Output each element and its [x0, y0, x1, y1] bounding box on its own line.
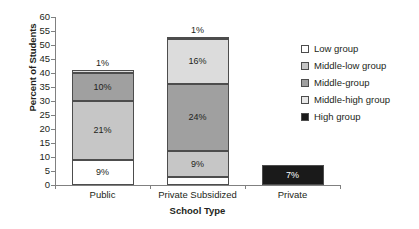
- segment-value-label: 10%: [93, 83, 111, 92]
- y-tick-label-35: 35: [26, 82, 50, 92]
- legend-swatch-icon: [301, 113, 309, 121]
- legend-swatch-icon: [301, 96, 309, 104]
- bar-segment[interactable]: 21%: [72, 101, 134, 160]
- x-tick-label-public: Public: [55, 190, 150, 200]
- bar-segment[interactable]: 9%: [72, 160, 134, 185]
- x-tick-mark: [150, 185, 151, 189]
- y-tick-label-5: 5: [26, 166, 50, 176]
- y-tick-label-45: 45: [26, 54, 50, 64]
- x-tick-label-private-subsidized: Private Subsidized: [150, 190, 245, 200]
- bar-segment[interactable]: [167, 37, 229, 40]
- y-tick-mark-25: [51, 115, 55, 116]
- y-tick-label-60: 60: [26, 12, 50, 22]
- segment-value-label: 16%: [188, 57, 206, 66]
- y-tick-mark-45: [51, 59, 55, 60]
- bar-segment[interactable]: 10%: [72, 73, 134, 101]
- x-tick-mark: [55, 185, 56, 189]
- y-axis-tick-labels: 605550454035302520151050: [26, 0, 50, 229]
- y-tick-label-50: 50: [26, 40, 50, 50]
- x-axis-line: [55, 185, 340, 186]
- y-tick-mark-20: [51, 129, 55, 130]
- bar-top-value-label: 1%: [72, 59, 134, 68]
- legend-label: Middle-group: [314, 78, 369, 88]
- y-tick-mark-5: [51, 171, 55, 172]
- segment-value-label: 21%: [93, 126, 111, 135]
- y-axis-line: [55, 17, 56, 186]
- legend-item-high-group[interactable]: High group: [301, 108, 390, 125]
- bar-segment[interactable]: 16%: [167, 39, 229, 84]
- legend-label: Middle-high group: [314, 95, 390, 105]
- y-tick-label-15: 15: [26, 138, 50, 148]
- x-tick-mark: [340, 185, 341, 189]
- legend-label: Low group: [314, 44, 358, 54]
- y-tick-mark-55: [51, 31, 55, 32]
- legend-item-low-group[interactable]: Low group: [301, 40, 390, 57]
- bar-segment[interactable]: 9%: [167, 151, 229, 176]
- bar-segment[interactable]: 24%: [167, 84, 229, 151]
- bar-public[interactable]: 9%21%10%1%: [72, 17, 134, 185]
- legend-item-middle-low-group[interactable]: Middle-low group: [301, 57, 390, 74]
- y-tick-mark-50: [51, 45, 55, 46]
- segment-value-label: 9%: [191, 160, 204, 169]
- bar-segment[interactable]: [167, 177, 229, 185]
- legend-label: High group: [314, 112, 360, 122]
- bar-segment[interactable]: [72, 70, 134, 73]
- y-tick-mark-60: [51, 17, 55, 18]
- bar-segment[interactable]: 7%: [262, 165, 324, 185]
- legend-swatch-icon: [301, 45, 309, 53]
- legend-swatch-icon: [301, 62, 309, 70]
- x-tick-label-private: Private: [245, 190, 340, 200]
- stacked-bar-chart: Percent of Students 60555045403530252015…: [0, 0, 419, 229]
- y-tick-mark-15: [51, 143, 55, 144]
- legend-swatch-icon: [301, 79, 309, 87]
- y-tick-label-10: 10: [26, 152, 50, 162]
- legend-label: Middle-low group: [314, 61, 386, 71]
- x-tick-mark: [245, 185, 246, 189]
- y-tick-label-30: 30: [26, 96, 50, 106]
- bar-private-subsidized[interactable]: 9%24%16%1%: [167, 17, 229, 185]
- y-tick-label-25: 25: [26, 110, 50, 120]
- bar-top-value-label: 1%: [167, 26, 229, 35]
- segment-value-label: 9%: [96, 168, 109, 177]
- y-tick-mark-35: [51, 87, 55, 88]
- y-tick-label-20: 20: [26, 124, 50, 134]
- y-tick-mark-40: [51, 73, 55, 74]
- legend-item-middle-group[interactable]: Middle-group: [301, 74, 390, 91]
- y-tick-label-55: 55: [26, 26, 50, 36]
- y-tick-label-40: 40: [26, 68, 50, 78]
- y-tick-mark-30: [51, 101, 55, 102]
- y-tick-mark-10: [51, 157, 55, 158]
- segment-value-label: 7%: [286, 171, 299, 180]
- segment-value-label: 24%: [188, 113, 206, 122]
- x-axis-title: School Type: [55, 205, 340, 216]
- legend-item-middle-high-group[interactable]: Middle-high group: [301, 91, 390, 108]
- plot-area: 9%21%10%1%9%24%16%1%7%: [55, 17, 340, 185]
- chart-legend: Low groupMiddle-low groupMiddle-groupMid…: [301, 40, 390, 125]
- y-tick-label-0: 0: [26, 180, 50, 190]
